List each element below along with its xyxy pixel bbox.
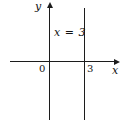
line-x-equals-3 xyxy=(84,8,85,120)
coordinate-plane-figure: y x 0 3 x = 3 xyxy=(0,0,128,131)
y-axis-label: y xyxy=(35,1,41,12)
origin-label: 0 xyxy=(39,64,45,74)
equation-label: x = 3 xyxy=(54,27,86,38)
y-axis-arrowhead-icon xyxy=(47,2,53,8)
y-axis xyxy=(49,5,50,120)
x-axis xyxy=(10,61,116,62)
x-tick-label: 3 xyxy=(87,64,93,74)
x-axis-label: x xyxy=(112,65,118,76)
